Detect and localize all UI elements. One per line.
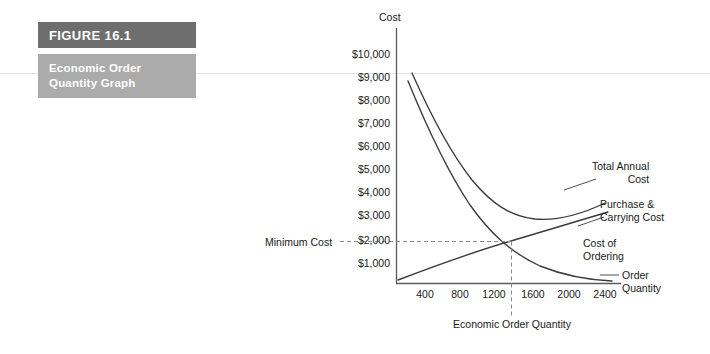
series-label-cost-of-ordering-line-1: Cost of	[583, 237, 624, 250]
y-tick-label-8000: $8,000	[334, 94, 390, 106]
x-axis-title: Order Quantity	[622, 269, 661, 295]
series-label-cost-of-ordering: Cost of Ordering	[583, 237, 624, 263]
x-tick-label-1200: 1200	[474, 288, 514, 300]
y-tick-label-6000: $6,000	[334, 140, 390, 152]
y-tick-label-2000: $2,000	[334, 234, 390, 246]
figure-page: FIGURE 16.1 Economic Order Quantity Grap…	[0, 0, 710, 354]
y-tick-label-7000: $7,000	[334, 117, 390, 129]
y-tick-label-4000: $4,000	[334, 186, 390, 198]
curve-total-annual-cost	[412, 73, 605, 219]
y-axis-title: Cost	[379, 11, 401, 23]
y-tick-label-5000: $5,000	[334, 163, 390, 175]
x-tick-label-2400: 2400	[585, 288, 625, 300]
y-tick-label-3000: $3,000	[334, 209, 390, 221]
minimum-cost-label: Minimum Cost	[265, 236, 332, 248]
economic-order-quantity-label: Economic Order Quantity	[436, 318, 588, 330]
x-axis-title-line-2: Quantity	[622, 282, 661, 295]
y-tick-label-9000: $9,000	[334, 71, 390, 83]
series-label-cost-of-ordering-line-2: Ordering	[583, 250, 624, 263]
series-label-purchase-carrying-cost-line-2: Carrying Cost	[600, 211, 664, 224]
series-label-total-annual-cost-line-2: Cost	[592, 173, 649, 186]
y-tick-label-10000: $10,000	[334, 48, 390, 60]
x-tick-label-1600: 1600	[513, 288, 553, 300]
series-label-total-annual-cost: Total Annual Cost	[592, 160, 649, 186]
x-axis-title-line-1: Order	[622, 269, 661, 282]
series-label-purchase-carrying-cost-line-1: Purchase &	[600, 198, 664, 211]
series-label-total-annual-cost-line-1: Total Annual	[592, 160, 649, 173]
curve-cost-of-ordering	[408, 81, 612, 281]
series-label-purchase-carrying-cost: Purchase & Carrying Cost	[600, 198, 664, 224]
x-tick-label-2000: 2000	[549, 288, 589, 300]
x-tick-label-400: 400	[405, 288, 445, 300]
y-tick-label-1000: $1,000	[334, 257, 390, 269]
curve-purchase-carrying-cost	[398, 212, 608, 280]
